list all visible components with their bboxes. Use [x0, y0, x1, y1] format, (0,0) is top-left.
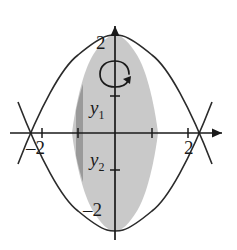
curve-upper-label-sub: 1: [98, 108, 104, 122]
y-axis-label-top: 2: [96, 33, 106, 52]
curve-lower-label-sub: 2: [98, 160, 104, 174]
curve-lower-label: y2: [90, 150, 104, 173]
x-axis-label-left: –2: [26, 138, 45, 157]
curve-upper-label: y1: [90, 98, 104, 121]
graph-canvas: [0, 0, 237, 250]
x-axis-label-right: 2: [184, 138, 194, 157]
y-axis-label-bottom: –2: [83, 200, 102, 219]
axis-arrow-up-icon: [111, 26, 120, 36]
volume-of-revolution-figure: 2 –2 –2 2 y1 y2: [0, 0, 237, 250]
axis-arrow-right-icon: [212, 129, 222, 138]
